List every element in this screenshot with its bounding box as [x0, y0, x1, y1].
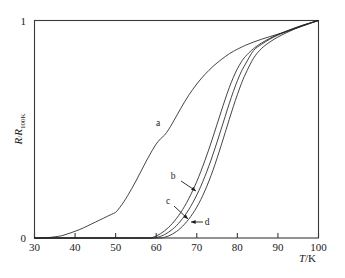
x-tick-label-40: 40 [70, 241, 82, 253]
curve-a [35, 21, 319, 239]
label-c: c [166, 196, 170, 206]
x-axis-ticks [35, 233, 319, 238]
x-tick-label-90: 90 [272, 241, 284, 253]
plot-frame [35, 21, 319, 239]
x-tick-label-30: 30 [29, 241, 41, 253]
label-b: b [171, 171, 176, 181]
x-tick-label-50: 50 [110, 241, 122, 253]
x-axis-tick-labels: 30405060708090100 [29, 241, 327, 253]
curve-annotations: abcd [156, 118, 210, 227]
data-curves [35, 21, 319, 239]
plot-frame-rect [35, 21, 319, 239]
curve-d [35, 21, 319, 239]
y-axis-title: R/R100K [12, 114, 27, 146]
y-axis-title-sub: 100K [19, 114, 27, 130]
label-d: d [205, 217, 210, 227]
x-tick-label-70: 70 [191, 241, 203, 253]
x-axis-title-sep: /K [305, 252, 316, 264]
x-tick-label-60: 60 [151, 241, 163, 253]
label-b-arrowhead-icon [191, 187, 196, 191]
curve-b [35, 21, 319, 239]
y-tick-label-0: 0 [21, 232, 27, 244]
label-a: a [156, 118, 161, 128]
resistance-vs-temperature-chart: 30405060708090100 1 0 R/R100K T/K abcd [0, 0, 345, 278]
curve-c [35, 21, 319, 239]
svg-text:R/R100K: R/R100K [12, 114, 27, 146]
x-axis-title: T/K [299, 252, 316, 264]
y-tick-label-1: 1 [21, 15, 27, 27]
x-tick-label-80: 80 [232, 241, 244, 253]
figure-root: 30405060708090100 1 0 R/R100K T/K abcd [0, 0, 345, 278]
label-d-arrowhead-icon [191, 220, 196, 224]
